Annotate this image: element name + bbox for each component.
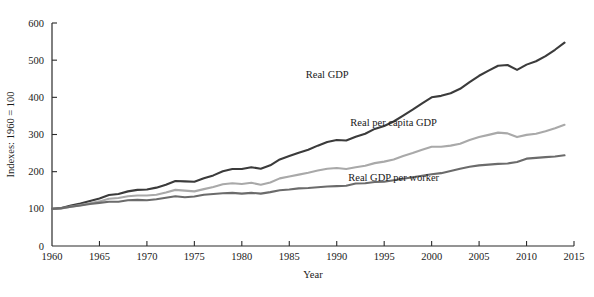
x-axis-tick-label: 2010 <box>516 251 537 262</box>
series-label-1: Real GDP <box>306 69 349 80</box>
chart-canvas: 0100200300400500600196019651970197519801… <box>0 0 594 297</box>
x-axis-tick-label: 1985 <box>279 251 300 262</box>
x-axis-tick-label: 1965 <box>89 251 110 262</box>
series-line-1 <box>52 43 565 209</box>
x-axis-tick-label: 1990 <box>326 251 347 262</box>
x-axis-tick-label: 1975 <box>184 251 205 262</box>
x-axis-tick-label: 2015 <box>564 251 585 262</box>
y-axis-tick-label: 0 <box>39 241 44 252</box>
y-axis-title: Indexes: 1960 = 100 <box>5 91 16 177</box>
x-axis-tick-label: 2005 <box>469 251 490 262</box>
series-line-2 <box>52 125 565 209</box>
x-axis-tick-label: 1970 <box>136 251 157 262</box>
series-label-2: Real per capita GDP <box>350 117 437 128</box>
x-axis-tick-label: 1960 <box>42 251 63 262</box>
x-axis-tick-label: 2000 <box>421 251 442 262</box>
series-line-3 <box>52 155 565 209</box>
y-axis-tick-label: 300 <box>28 129 44 140</box>
y-axis-tick-label: 400 <box>28 92 44 103</box>
y-axis-tick-label: 200 <box>28 166 44 177</box>
figure-caption <box>0 287 594 297</box>
x-axis-tick-label: 1995 <box>374 251 395 262</box>
y-axis-tick-label: 600 <box>28 18 44 29</box>
y-axis-tick-label: 100 <box>28 203 44 214</box>
x-axis-title: Year <box>303 269 323 280</box>
series-label-3: Real GDP per worker <box>348 172 439 183</box>
x-axis-tick-label: 1980 <box>231 251 252 262</box>
gdp-index-line-chart: 0100200300400500600196019651970197519801… <box>0 0 594 297</box>
y-axis-tick-label: 500 <box>28 55 44 66</box>
